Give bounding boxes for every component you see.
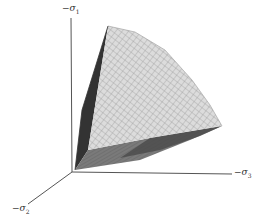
axis-label-sigma1: −σ1 — [62, 3, 80, 15]
axis-sigma3 — [72, 172, 232, 174]
axis-sigma1 — [71, 18, 72, 172]
axis-sigma2 — [28, 172, 72, 204]
axis-label-sigma3: −σ3 — [234, 167, 252, 179]
axis-label-sigma2: −σ2 — [12, 203, 30, 215]
plot-canvas — [0, 0, 259, 223]
yield-surface — [75, 26, 222, 170]
yield-surface-figure: −σ1 −σ2 −σ3 — [0, 0, 259, 223]
